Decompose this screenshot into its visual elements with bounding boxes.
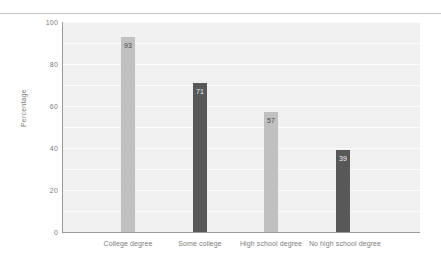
- bar-some-college[interactable]: 71: [193, 83, 207, 232]
- bar-value-label: 57: [264, 117, 278, 124]
- x-axis-tick-label-college-degree: College degree: [104, 240, 153, 247]
- plot-area: 93 71 57 39: [62, 22, 420, 232]
- gridline: [62, 85, 420, 86]
- chart-page: Percentage 100 80 60 40 20 0 93: [0, 0, 441, 254]
- x-axis-tick-label-some-college: Some college: [178, 240, 222, 247]
- gridline: [62, 190, 420, 191]
- y-axis-tick-label: 100: [6, 19, 58, 26]
- y-axis-tick-label: 0: [6, 229, 58, 236]
- y-axis-tick-label: 40: [6, 145, 58, 152]
- gridline: [62, 211, 420, 212]
- y-axis-tick-label: 60: [6, 103, 58, 110]
- y-axis-ticks: 100 80 60 40 20 0: [0, 14, 58, 254]
- bar-no-high-school-degree[interactable]: 39: [336, 150, 350, 232]
- x-axis-labels: College degree Some college High school …: [0, 240, 441, 254]
- gridline: [62, 43, 420, 44]
- gridline: [62, 22, 420, 23]
- y-axis-tick-label: 80: [6, 61, 58, 68]
- x-axis-tick-label-high-school-degree: High school degree: [240, 240, 302, 247]
- x-axis-line: [62, 232, 420, 233]
- gridline: [62, 148, 420, 149]
- x-axis-tick-label-no-high-school-degree: No high school degree: [309, 240, 381, 247]
- gridline: [62, 64, 420, 65]
- bar-high-school-degree[interactable]: 57: [264, 112, 278, 232]
- bar-value-label: 39: [336, 155, 350, 162]
- bar-chart: Percentage 100 80 60 40 20 0 93: [0, 14, 441, 254]
- gridline: [62, 127, 420, 128]
- gridline: [62, 169, 420, 170]
- bar-value-label: 93: [121, 42, 135, 49]
- bar-value-label: 71: [193, 88, 207, 95]
- y-axis-tick-label: 20: [6, 187, 58, 194]
- bar-college-degree[interactable]: 93: [121, 37, 135, 232]
- gridline: [62, 106, 420, 107]
- y-axis-line: [62, 22, 63, 232]
